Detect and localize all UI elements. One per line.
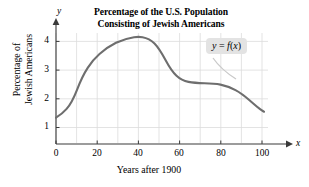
y-axis-title-line1: Percentage of	[11, 43, 22, 97]
x-axis	[56, 141, 293, 148]
y-tick-label-4: 4	[37, 35, 49, 45]
callout-equals: =	[216, 40, 227, 51]
callout-paren-close: )	[238, 40, 241, 51]
curve-callout-label: y = f(x)	[206, 38, 247, 54]
y-tick-label-2: 2	[37, 93, 49, 103]
x-tick-label-0: 0	[45, 148, 67, 158]
x-tick-label-80: 80	[210, 148, 232, 158]
chart-figure: Percentage of the U.S. Population Consis…	[0, 0, 309, 187]
y-axis-title-line2: Jewish Americans	[22, 15, 34, 125]
y-tick-label-1: 1	[37, 121, 49, 131]
x-tick-label-40: 40	[127, 148, 149, 158]
y-axis	[53, 18, 60, 144]
x-tick-label-20: 20	[86, 148, 108, 158]
y-axis-title: Percentage of Jewish Americans	[11, 15, 34, 125]
y-tick-label-3: 3	[37, 64, 49, 74]
x-tick-label-60: 60	[168, 148, 190, 158]
x-axis-variable: x	[296, 138, 300, 148]
x-tick-label-100: 100	[251, 148, 273, 158]
x-axis-title: Years after 1900	[79, 164, 219, 175]
y-axis-variable: y	[57, 6, 61, 16]
callout-leader-line	[213, 58, 236, 79]
